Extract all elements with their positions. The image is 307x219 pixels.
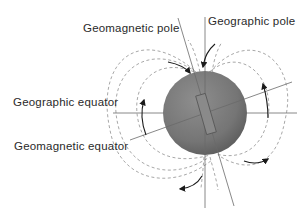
geographic-equator-label: Geographic equator bbox=[13, 96, 118, 108]
arrow-left-up bbox=[142, 100, 146, 135]
geomagnetic-equator-label: Geomagnetic equator bbox=[14, 140, 128, 152]
geomagnetic-pole-label: Geomagnetic pole bbox=[83, 22, 180, 34]
geographic-pole-label: Geographic pole bbox=[208, 15, 295, 27]
geomagnetic-diagram: Geomagnetic pole Geographic pole Geograp… bbox=[0, 0, 307, 219]
arrow-bottom-left bbox=[180, 176, 202, 189]
